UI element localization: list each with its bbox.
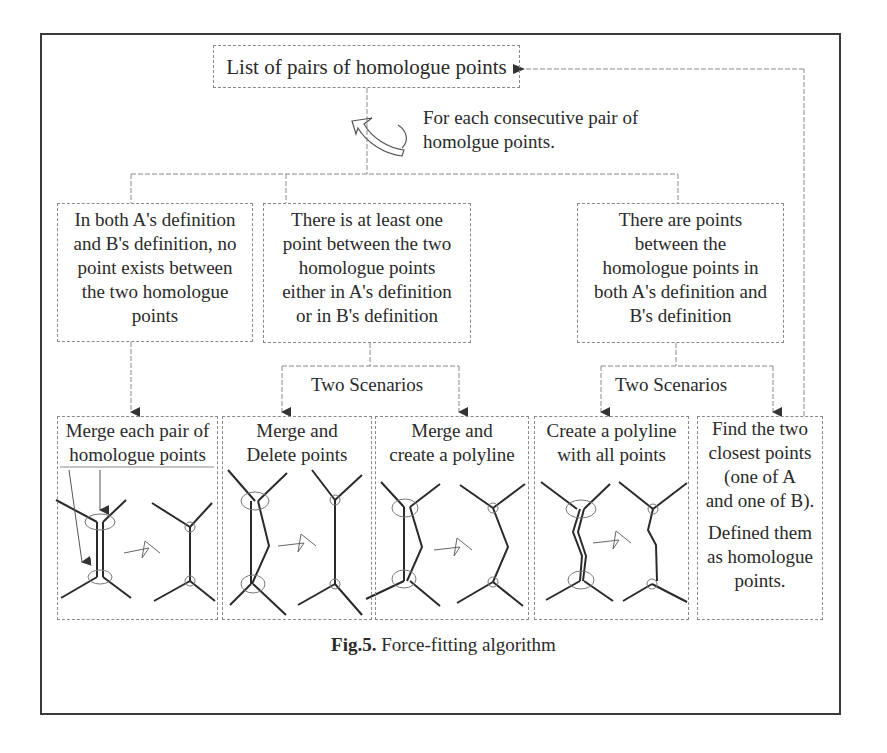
condition-line: points: [58, 304, 252, 328]
action-box-merge-each: Merge each pair of homologue points: [57, 416, 218, 620]
action-line: Merge and: [376, 419, 528, 443]
condition-line: B's definition: [578, 304, 783, 328]
action-line: create a polyline: [376, 443, 528, 467]
condition-line: the two homologue: [58, 280, 252, 304]
condition-line: and B's definition, no: [58, 232, 252, 256]
loop-note-line2: homolgue points.: [423, 130, 638, 154]
action-line: as homologue: [698, 545, 822, 569]
figure-caption: Fig.5. Force-fitting algorithm: [0, 634, 887, 656]
action-line: Delete points: [223, 443, 371, 467]
action-box-closest-points: Find the two closest points (one of A an…: [697, 416, 823, 620]
action-line: Merge each pair of: [58, 419, 217, 443]
pairs-list-label: List of pairs of homologue points: [214, 54, 519, 80]
action-line: homologue points: [58, 443, 217, 467]
pairs-list-box: List of pairs of homologue points: [213, 45, 520, 88]
action-line: and one of B).: [698, 489, 822, 513]
action-line: Merge and: [223, 419, 371, 443]
condition-line: point exists between: [58, 256, 252, 280]
condition-box-no-points: In both A's definition and B's definitio…: [57, 203, 253, 342]
action-box-polyline-all: Create a polyline with all points: [534, 416, 689, 620]
action-line: closest points: [698, 441, 822, 465]
condition-line: homologue points in: [578, 256, 783, 280]
scenario-label-2: Two Scenarios: [615, 373, 727, 397]
loop-note-line1: For each consecutive pair of: [423, 106, 638, 130]
condition-line: point between the two: [264, 232, 470, 256]
condition-line: There is at least one: [264, 208, 470, 232]
caption-text: Force-fitting algorithm: [376, 634, 555, 655]
action-line: (one of A: [698, 465, 822, 489]
action-line: [698, 513, 822, 521]
action-line: Defined them: [698, 521, 822, 545]
scenario-label-1: Two Scenarios: [311, 373, 423, 397]
action-line: Find the two: [698, 417, 822, 441]
condition-line: either in A's definition: [264, 280, 470, 304]
loop-arrow-icon: [352, 118, 406, 156]
action-line: Create a polyline: [535, 419, 688, 443]
condition-line: There are points: [578, 208, 783, 232]
condition-box-one-side: There is at least one point between the …: [263, 203, 471, 343]
action-line: with all points: [535, 443, 688, 467]
action-box-merge-delete: Merge and Delete points: [222, 416, 372, 620]
caption-prefix: Fig.5.: [331, 634, 376, 655]
loop-note: For each consecutive pair of homolgue po…: [423, 106, 638, 154]
action-line: points.: [698, 569, 822, 593]
condition-line: between the: [578, 232, 783, 256]
condition-line: homologue points: [264, 256, 470, 280]
condition-box-both-sides: There are points between the homologue p…: [577, 203, 784, 343]
action-box-merge-polyline: Merge and create a polyline: [375, 416, 529, 620]
condition-line: both A's definition and: [578, 280, 783, 304]
condition-line: or in B's definition: [264, 304, 470, 328]
condition-line: In both A's definition: [58, 208, 252, 232]
